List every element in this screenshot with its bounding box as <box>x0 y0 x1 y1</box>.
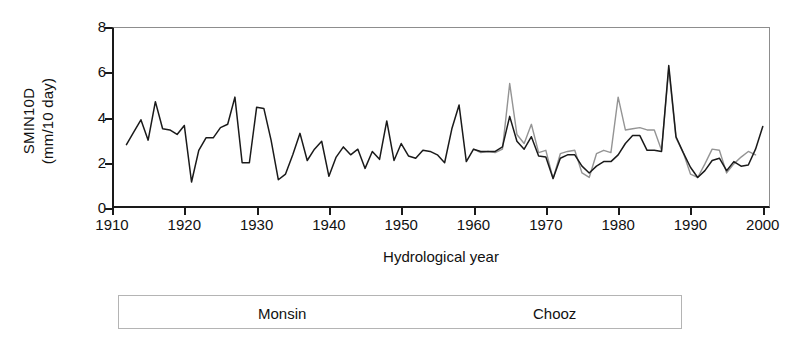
x-tick-label-1930: 1930 <box>227 216 287 233</box>
series-line-monsin <box>126 65 762 182</box>
legend-item-monsin: Monsin <box>197 296 306 330</box>
x-tick-label-2000: 2000 <box>733 216 793 233</box>
y-tick-label-2: 2 <box>82 155 106 170</box>
chart-figure: SMIN10D (mm/10 day) 02468 19101920193019… <box>0 0 800 345</box>
y-tick-text: 2 <box>84 155 106 170</box>
y-tick-text: 0 <box>84 200 106 215</box>
x-tick-label-1960: 1960 <box>444 216 504 233</box>
x-tick-label-1970: 1970 <box>516 216 576 233</box>
y-tick-label-0: 0 <box>82 200 106 215</box>
x-tick-mark-1970 <box>546 208 548 215</box>
legend: Monsin Chooz <box>118 295 682 329</box>
x-tick-mark-1920 <box>184 208 186 215</box>
x-tick-mark-2000 <box>763 208 765 215</box>
y-tick-label-6: 6 <box>82 64 106 79</box>
x-tick-mark-1980 <box>618 208 620 215</box>
y-axis-title: SMIN10D (mm/10 day) <box>19 21 57 221</box>
x-tick-mark-1990 <box>690 208 692 215</box>
x-tick-label-1950: 1950 <box>371 216 431 233</box>
series-line-chooz <box>474 69 756 179</box>
y-tick-label-8: 8 <box>82 19 106 34</box>
x-tick-mark-1950 <box>401 208 403 215</box>
x-tick-label-1940: 1940 <box>299 216 359 233</box>
y-tick-text: 8 <box>84 19 106 34</box>
y-tick-text: 4 <box>84 110 106 125</box>
y-tick-text: 6 <box>84 64 106 79</box>
x-tick-mark-1930 <box>257 208 259 215</box>
x-tick-mark-1910 <box>112 208 114 215</box>
y-tick-label-4: 4 <box>82 110 106 125</box>
legend-item-chooz: Chooz <box>472 296 576 330</box>
x-tick-mark-1940 <box>329 208 331 215</box>
y-axis-title-line-1: SMIN10D <box>19 21 38 221</box>
legend-label-monsin: Monsin <box>258 306 306 321</box>
data-lines <box>112 27 770 208</box>
x-tick-label-1990: 1990 <box>660 216 720 233</box>
x-tick-mark-1960 <box>474 208 476 215</box>
x-tick-label-1980: 1980 <box>588 216 648 233</box>
x-axis-title: Hydrological year <box>112 248 770 266</box>
y-axis-title-line-2: (mm/10 day) <box>38 21 57 221</box>
x-tick-label-1920: 1920 <box>154 216 214 233</box>
x-tick-label-1910: 1910 <box>82 216 142 233</box>
legend-label-chooz: Chooz <box>533 306 576 321</box>
